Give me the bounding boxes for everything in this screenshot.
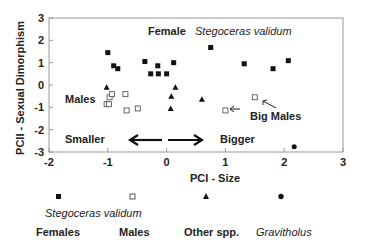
data-point — [286, 58, 291, 63]
legend-females-label: Females — [36, 226, 80, 238]
y-tick-label: 2 — [38, 34, 44, 46]
data-point — [199, 96, 205, 102]
y-tick-label: -1 — [34, 101, 44, 113]
legend-other-marker-icon — [203, 193, 209, 199]
data-point — [115, 66, 120, 71]
data-point — [168, 105, 174, 111]
data-point — [155, 63, 160, 68]
x-tick-label: 2 — [281, 156, 287, 168]
y-tick-label: -3 — [34, 146, 44, 158]
legend: Stegoceras validum Females Males Other s… — [36, 193, 312, 238]
x-axis-label: PCI - Size — [190, 172, 240, 184]
data-point — [168, 93, 174, 99]
y-tick-label: 1 — [38, 57, 44, 69]
legend-males-label: Males — [119, 226, 150, 238]
y-tick-label: -2 — [34, 124, 44, 136]
annotation-males: Males — [65, 93, 96, 105]
x-tick-label: 1 — [222, 156, 228, 168]
annotation-big-males: Big Males — [250, 110, 301, 122]
arrow-big-males-2-icon — [263, 100, 276, 108]
data-point — [271, 66, 276, 71]
data-point — [105, 50, 110, 55]
data-points — [104, 45, 297, 149]
data-point — [106, 102, 111, 107]
annotation-female: Female — [148, 25, 186, 37]
data-point — [292, 144, 297, 149]
annotation-bigger: Bigger — [220, 133, 256, 145]
data-point — [242, 61, 247, 66]
data-point — [142, 59, 147, 64]
legend-species-label: Stegoceras validum — [45, 207, 142, 219]
x-tick-label: -2 — [44, 156, 54, 168]
data-point — [252, 95, 257, 100]
data-point — [104, 84, 110, 90]
x-tick-label: 0 — [164, 156, 170, 168]
data-point — [208, 45, 213, 50]
data-point — [172, 84, 178, 90]
data-point — [124, 108, 129, 113]
annotation-smaller: Smaller — [65, 133, 105, 145]
arrow-big-males-1-icon — [230, 106, 240, 112]
data-point — [123, 92, 128, 97]
legend-gravitholus-marker-icon — [278, 194, 283, 199]
data-point — [223, 108, 228, 113]
arrow-bigger-icon — [168, 135, 202, 145]
legend-females-marker-icon — [56, 194, 61, 199]
data-point — [135, 106, 140, 111]
data-point — [109, 92, 114, 97]
y-tick-label: 3 — [38, 12, 44, 24]
x-axis-ticks: -2-10123 — [44, 148, 346, 168]
y-axis-label: PCII - Sexual Dimorphism — [14, 21, 26, 155]
legend-gravitholus-label: Gravitholus — [256, 226, 312, 238]
legend-males-marker-icon — [130, 194, 135, 199]
scatter-chart: -2-10123 -3-2-10123 Female Stegoceras va… — [0, 0, 366, 247]
x-tick-label: 3 — [340, 156, 346, 168]
data-point — [148, 71, 153, 76]
arrow-smaller-icon — [130, 135, 162, 145]
plot-area — [49, 18, 343, 152]
annotation-species: Stegoceras validum — [195, 25, 292, 37]
data-point — [171, 60, 176, 65]
x-tick-label: -1 — [103, 156, 113, 168]
data-point — [164, 71, 169, 76]
legend-other-label: Other spp. — [184, 226, 239, 238]
y-axis-ticks: -3-2-10123 — [34, 12, 53, 158]
y-tick-label: 0 — [38, 79, 44, 91]
data-point — [156, 71, 161, 76]
